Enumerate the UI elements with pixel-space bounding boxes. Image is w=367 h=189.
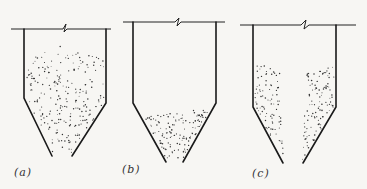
panel-label-b: (b)	[122, 163, 141, 176]
particles-c	[255, 65, 335, 160]
panel-label-a: (a)	[14, 166, 32, 179]
left-wall-a	[24, 29, 52, 156]
hopper-c	[240, 20, 356, 163]
panel-label-c: (c)	[252, 167, 270, 180]
roof-break-line-c	[240, 20, 356, 29]
left-wall-b	[133, 22, 166, 162]
right-wall-a	[72, 29, 106, 156]
particles-a	[26, 46, 104, 153]
right-wall-c	[303, 25, 336, 163]
hopper-b	[123, 18, 225, 162]
left-wall-c	[253, 25, 283, 163]
hopper-diagram	[0, 0, 367, 189]
hopper-a	[11, 24, 111, 156]
roof-break-line-b	[123, 18, 225, 26]
roof-break-line-a	[11, 24, 111, 32]
